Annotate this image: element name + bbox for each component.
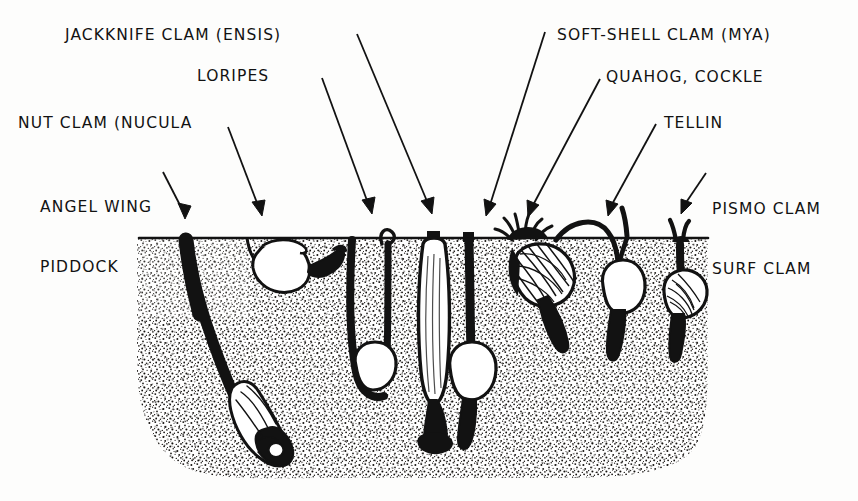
label-angel-wing-piddock: ANGEL WING PIDDOCK (40, 157, 152, 297)
arrow-soft-shell (484, 32, 545, 216)
arrow-tellin (606, 124, 656, 216)
label-nut-clam-nucula: NUT CLAM (NUCULA (18, 114, 192, 133)
arrow-pismo (681, 173, 706, 214)
label-surf-clam-line2: SURF CLAM (712, 259, 821, 279)
label-piddock-line2: PIDDOCK (40, 257, 152, 277)
label-angel-wing-line1: ANGEL WING (40, 197, 152, 217)
label-jackknife-clam: JACKKNIFE CLAM (ENSIS) (65, 26, 281, 45)
label-pismo-clam-line1: PISMO CLAM (712, 199, 821, 219)
label-pismo-surf-clam: PISMO CLAM SURF CLAM (712, 159, 821, 299)
label-soft-shell-clam-mya: SOFT-SHELL CLAM (MYA) (557, 26, 771, 45)
label-loripes: LORIPES (197, 67, 269, 86)
illustration-canvas: JACKKNIFE CLAM (ENSIS) LORIPES NUT CLAM … (0, 0, 858, 501)
arrow-nut-clam (228, 127, 265, 216)
arrow-jackknife (357, 34, 434, 214)
label-tellin: TELLIN (664, 114, 723, 133)
arrow-loripes (322, 78, 375, 214)
arrow-angel-wing (163, 172, 191, 219)
leader-arrows (163, 32, 706, 219)
arrow-quahog (527, 79, 600, 217)
label-quahog-cockle: QUAHOG, COCKLE (606, 68, 764, 87)
